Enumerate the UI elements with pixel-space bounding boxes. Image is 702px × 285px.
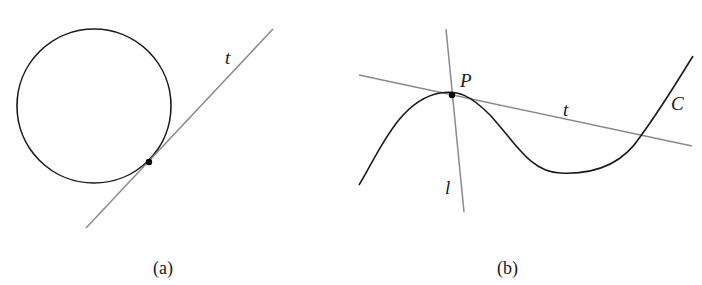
tangent-line-t-a [86,29,273,228]
label-l: l [445,177,450,198]
curve-c [359,56,693,185]
label-t-a: t [225,47,231,68]
label-c: C [671,93,684,114]
panel-a: t (a) [17,29,273,279]
diagram-canvas: t (a) P t C l (b) [0,0,702,285]
tangent-point-a [146,159,152,165]
label-p: P [459,70,472,91]
point-p [449,92,455,98]
caption-a: (a) [153,258,173,279]
panel-b: P t C l (b) [359,29,693,279]
label-t-b: t [563,99,569,120]
caption-b: (b) [497,258,518,279]
